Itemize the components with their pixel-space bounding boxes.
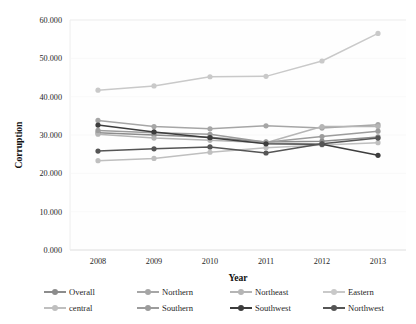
legend-item-northeast[interactable]: Northeast <box>222 284 315 300</box>
data-point <box>95 128 100 133</box>
legend-item-central[interactable]: central <box>36 300 129 316</box>
y-tick-label: 30.000 <box>39 131 62 140</box>
x-tick-label: 2009 <box>146 257 162 266</box>
y-tick-label: 60.000 <box>39 16 62 25</box>
legend-marker-glyph <box>52 305 58 311</box>
data-point <box>207 126 212 131</box>
data-point <box>151 135 156 140</box>
x-tick-label: 2008 <box>90 257 106 266</box>
legend-swatch-icon <box>137 287 159 297</box>
legend-item-southwest[interactable]: Southwest <box>222 300 315 316</box>
y-tick-label: 40.000 <box>39 93 62 102</box>
x-tick-label: 2010 <box>202 257 218 266</box>
legend-marker-glyph <box>52 289 58 295</box>
legend-label: Northern <box>162 287 193 297</box>
data-point <box>263 123 268 128</box>
y-tick-label: 20.000 <box>39 169 62 178</box>
legend-row-2: centralSouthernSouthwestNorthwest <box>36 300 408 316</box>
data-point <box>375 31 380 36</box>
corruption-line-chart: 0.00010.00020.00030.00040.00050.00060.00… <box>0 0 416 324</box>
legend-label: Northwest <box>348 303 384 313</box>
legend-marker-glyph <box>145 289 151 295</box>
x-tick-labels: 200820092010201120122013 <box>90 257 386 266</box>
data-point <box>375 153 380 158</box>
data-point <box>151 156 156 161</box>
data-point <box>207 150 212 155</box>
y-tick-label: 50.000 <box>39 54 62 63</box>
data-point <box>95 158 100 163</box>
chart-canvas: 0.00010.00020.00030.00040.00050.00060.00… <box>0 0 416 324</box>
y-tick-label: 10.000 <box>39 208 62 217</box>
plot-area-wrapper: 0.00010.00020.00030.00040.00050.00060.00… <box>0 0 416 324</box>
data-point <box>319 58 324 63</box>
data-point <box>375 129 380 134</box>
x-axis-title: Year <box>228 272 248 283</box>
legend-label: Overall <box>69 287 95 297</box>
legend-swatch-icon <box>323 303 345 313</box>
legend-item-northwest[interactable]: Northwest <box>315 300 408 316</box>
legend-row-1: OverallNorthernNortheastEastern <box>36 284 408 300</box>
legend-swatch-icon <box>230 287 252 297</box>
data-point <box>319 124 324 129</box>
legend-swatch-icon <box>230 303 252 313</box>
legend-marker-glyph <box>238 289 244 295</box>
data-point <box>263 150 268 155</box>
data-point <box>151 124 156 129</box>
data-point <box>375 124 380 129</box>
data-point <box>207 135 212 140</box>
x-tick-label: 2013 <box>370 257 386 266</box>
legend-label: central <box>69 303 92 313</box>
legend-marker-glyph <box>145 305 151 311</box>
legend-label: Southwest <box>255 303 291 313</box>
legend-swatch-icon <box>323 287 345 297</box>
data-point <box>263 74 268 79</box>
data-point <box>95 122 100 127</box>
x-tick-label: 2011 <box>258 257 274 266</box>
data-point <box>319 141 324 146</box>
legend-marker-glyph <box>331 289 337 295</box>
data-point <box>319 134 324 139</box>
legend-item-northern[interactable]: Northern <box>129 284 222 300</box>
data-point <box>263 141 268 146</box>
legend-label: Eastern <box>348 287 374 297</box>
data-point <box>207 74 212 79</box>
x-tick-label: 2012 <box>314 257 330 266</box>
data-point <box>151 83 156 88</box>
legend-item-eastern[interactable]: Eastern <box>315 284 408 300</box>
data-point <box>151 146 156 151</box>
chart-legend: OverallNorthernNortheastEasterncentralSo… <box>36 284 408 318</box>
legend-swatch-icon <box>44 303 66 313</box>
legend-item-overall[interactable]: Overall <box>36 284 129 300</box>
legend-label: Southern <box>162 303 193 313</box>
legend-marker-glyph <box>331 305 337 311</box>
data-point <box>375 135 380 140</box>
legend-label: Northeast <box>255 287 288 297</box>
legend-swatch-icon <box>44 287 66 297</box>
data-point <box>207 144 212 149</box>
legend-marker-glyph <box>238 305 244 311</box>
data-point <box>151 129 156 134</box>
y-axis-title: Corruption <box>13 121 24 169</box>
legend-swatch-icon <box>137 303 159 313</box>
data-point <box>375 140 380 145</box>
data-point <box>95 88 100 93</box>
legend-item-southern[interactable]: Southern <box>129 300 222 316</box>
data-point <box>95 149 100 154</box>
y-tick-label: 0.000 <box>44 246 62 255</box>
data-point <box>95 118 100 123</box>
